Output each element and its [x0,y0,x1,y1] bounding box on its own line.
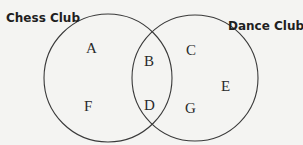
region-c: C [186,42,196,58]
chess-club-label: Chess Club [6,11,80,25]
dance-club-circle [132,15,258,141]
region-e: E [221,78,230,94]
region-a: A [86,40,97,56]
region-d: D [144,97,155,113]
region-f: F [84,98,92,114]
region-g: G [185,100,196,116]
chess-club-circle [44,14,172,142]
region-b: B [144,53,154,69]
venn-diagram: Chess Club Dance Club A B C D E F G [0,0,303,145]
dance-club-label: Dance Club [228,19,303,33]
